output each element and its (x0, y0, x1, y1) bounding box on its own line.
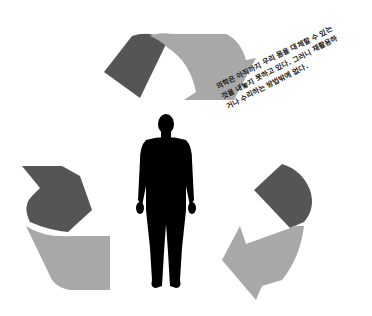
recycle-arrow-left-icon (22, 166, 110, 290)
recycle-arrow-right-icon (222, 164, 312, 300)
recycle-illustration: 의학은 아직까지 우리 몸을 대체할 수 있는 것을 내놓지 못하고 있다. 그… (0, 0, 372, 316)
human-silhouette-icon (136, 114, 196, 288)
